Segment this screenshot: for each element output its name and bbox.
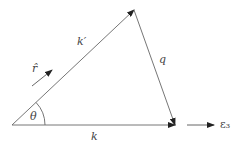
angle-arc [36, 102, 45, 125]
vector-k-prime [12, 10, 134, 125]
vector-diagram: k′ q k ε₃ r̂ θ [0, 0, 242, 151]
label-k: k [91, 131, 98, 142]
label-e3: ε₃ [220, 119, 230, 130]
label-q: q [159, 54, 166, 65]
label-theta: θ [30, 111, 37, 122]
diagram-svg [0, 0, 242, 151]
vector-q [134, 10, 175, 125]
label-r-hat: r̂ [32, 63, 37, 74]
label-k-prime: k′ [77, 36, 86, 47]
